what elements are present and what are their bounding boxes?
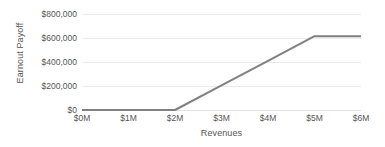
series-line-earnout-payoff [82,14,361,110]
y-axis-title: Earnout Payoff [15,5,25,101]
plot-area: $0$200,000$400,000$600,000$800,000 $0M$1… [82,14,361,110]
earnout-payoff-chart: Earnout Payoff $0$200,000$400,000$600,00… [0,0,385,147]
x-axis-title: Revenues [82,128,361,138]
x-tick-label: $0M [74,113,91,123]
y-tick-label: $800,000 [42,9,77,19]
x-tick-label: $4M [260,113,277,123]
x-tick-label: $5M [306,113,323,123]
x-tick-label: $2M [167,113,184,123]
x-tick-label: $3M [213,113,230,123]
x-tick-label: $6M [353,113,370,123]
y-tick-label: $600,000 [42,33,77,43]
y-tick-label: $400,000 [42,57,77,67]
y-tick-label: $200,000 [42,81,77,91]
x-tick-label: $1M [120,113,137,123]
series-polyline [82,36,361,110]
